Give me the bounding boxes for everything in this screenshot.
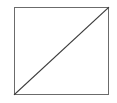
square-with-diagonal-figure: Square with diagonal line A plain square…	[0, 0, 117, 103]
figure-canvas: Square with diagonal line A plain square…	[0, 0, 117, 103]
